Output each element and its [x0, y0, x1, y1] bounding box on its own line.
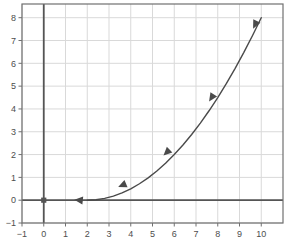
x-axis-tick-labels: −1012345678910	[17, 229, 266, 239]
x-tick-label-2: 1	[63, 229, 68, 239]
chart-container: −1012345678910 −1012345678	[0, 0, 291, 249]
parabola-plot: −1012345678910 −1012345678	[0, 0, 291, 249]
x-tick-label-8: 7	[193, 229, 198, 239]
x-tick-label-0: −1	[17, 229, 27, 239]
y-tick-label-7: 6	[11, 59, 16, 69]
y-tick-label-6: 5	[11, 81, 16, 91]
y-tick-label-5: 4	[11, 104, 16, 114]
y-tick-label-0: −1	[6, 218, 16, 228]
x-tick-label-6: 5	[150, 229, 155, 239]
x-tick-label-4: 3	[106, 229, 111, 239]
y-tick-label-8: 7	[11, 36, 16, 46]
y-tick-label-1: 0	[11, 195, 16, 205]
x-tick-label-3: 2	[85, 229, 90, 239]
y-axis-tick-labels: −1012345678	[6, 13, 16, 228]
point-markers	[41, 198, 46, 203]
x-tick-label-7: 6	[172, 229, 177, 239]
x-tick-label-9: 8	[215, 229, 220, 239]
y-tick-label-2: 1	[11, 173, 16, 183]
x-tick-label-1: 0	[41, 229, 46, 239]
y-tick-label-4: 3	[11, 127, 16, 137]
x-tick-label-10: 9	[237, 229, 242, 239]
y-tick-label-9: 8	[11, 13, 16, 23]
y-tick-label-3: 2	[11, 150, 16, 160]
origin-point	[41, 198, 46, 203]
x-tick-label-5: 4	[128, 229, 133, 239]
x-tick-label-11: 10	[256, 229, 266, 239]
